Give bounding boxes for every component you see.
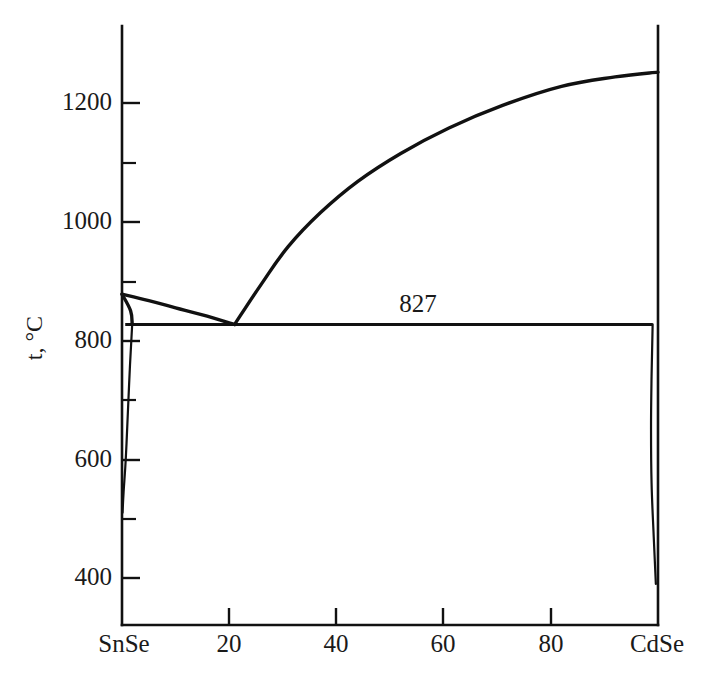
eutectic-temperature-label: 827 (399, 290, 437, 317)
phase-boundaries (122, 72, 658, 584)
snse-solidus (122, 294, 132, 324)
y-tick-label-600: 600 (75, 445, 113, 472)
x-tick-label-40: 40 (324, 630, 349, 657)
x-axis-ticks (229, 608, 551, 625)
cdse-solvus (651, 324, 656, 583)
liquidus-snse-branch (122, 294, 235, 324)
y-axis-title: t, °C (21, 316, 47, 360)
x-tick-label-snse: SnSe (98, 630, 149, 657)
y-tick-label-1200: 1200 (62, 88, 112, 115)
y-axis-tick-labels: 1200 1000 800 600 400 (62, 88, 112, 590)
x-tick-label-80: 80 (539, 630, 564, 657)
y-tick-label-400: 400 (75, 563, 113, 590)
y-tick-label-1000: 1000 (62, 207, 112, 234)
liquidus-cdse-branch (235, 72, 658, 324)
x-tick-label-20: 20 (217, 630, 242, 657)
phase-diagram-figure: 1200 1000 800 600 400 t, °C SnSe 20 40 6… (0, 0, 711, 694)
phase-diagram-svg: 1200 1000 800 600 400 t, °C SnSe 20 40 6… (0, 0, 711, 694)
x-tick-label-cdse: CdSe (630, 630, 684, 657)
snse-solvus (123, 324, 133, 512)
y-tick-label-800: 800 (75, 326, 113, 353)
x-axis-tick-labels: SnSe 20 40 60 80 CdSe (98, 630, 684, 657)
x-tick-label-60: 60 (431, 630, 456, 657)
